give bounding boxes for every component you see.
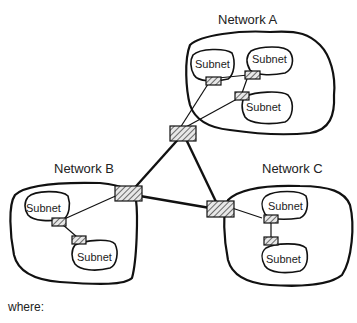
router-a-backbone — [170, 126, 196, 141]
router-a3 — [235, 92, 249, 100]
network-a-label: Network A — [218, 12, 278, 27]
subnet-c1-label: Subnet — [268, 200, 303, 212]
footer-where-text: where: — [8, 300, 44, 314]
subnet-a1-label: Subnet — [195, 58, 230, 70]
router-b-backbone — [115, 186, 142, 201]
network-diagram: Network A Subnet Subnet Subnet Network B… — [0, 0, 357, 323]
subnet-c2-label: Subnet — [266, 253, 301, 265]
network-b-label: Network B — [54, 161, 114, 176]
router-a2 — [245, 71, 260, 79]
subnet-b1-label: Subnet — [26, 202, 61, 214]
router-c-backbone — [207, 201, 234, 217]
router-b2 — [72, 236, 86, 244]
subnet-b2-label: Subnet — [77, 251, 112, 263]
router-b1 — [52, 218, 66, 226]
router-c1 — [264, 215, 278, 223]
router-a1 — [206, 77, 221, 85]
subnet-a2-label: Subnet — [252, 53, 287, 65]
backbone-links — [130, 135, 219, 208]
network-c-label: Network C — [262, 161, 323, 176]
subnet-a3-label: Subnet — [246, 101, 281, 113]
routers — [52, 71, 278, 245]
router-c2 — [264, 237, 278, 245]
